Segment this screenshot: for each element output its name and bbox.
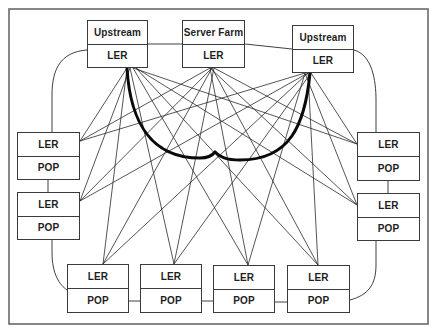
node-pop-bottom-4-top-label: LER xyxy=(288,266,349,289)
node-pop-bottom-1-top-label: LER xyxy=(68,265,128,288)
node-upstream-left-bottom-label: LER xyxy=(88,44,147,68)
node-pop-right-1-bottom-label: POP xyxy=(358,156,419,180)
link-upstream-right-to-pop-right-2 xyxy=(305,73,357,205)
node-pop-right-2-top-label: LER xyxy=(358,194,419,217)
node-pop-bottom-4[interactable]: LER POP xyxy=(287,265,350,313)
node-pop-bottom-3[interactable]: LER POP xyxy=(213,265,275,313)
node-server-farm-bottom-label: LER xyxy=(183,44,244,68)
node-pop-right-1-top-label: LER xyxy=(358,133,419,156)
node-pop-right-2-bottom-label: POP xyxy=(358,217,419,241)
node-pop-bottom-3-bottom-label: POP xyxy=(214,289,274,313)
node-pop-bottom-4-bottom-label: POP xyxy=(288,289,349,313)
node-upstream-right-top-label: Upstream xyxy=(293,26,353,49)
node-pop-bottom-3-top-label: LER xyxy=(214,266,274,289)
node-pop-left-2-bottom-label: POP xyxy=(18,216,79,240)
node-upstream-right[interactable]: Upstream LER xyxy=(292,25,354,73)
node-server-farm-top-label: Server Farm xyxy=(183,21,244,44)
node-pop-bottom-2-bottom-label: POP xyxy=(141,288,201,312)
node-upstream-right-bottom-label: LER xyxy=(293,49,353,73)
node-upstream-left[interactable]: Upstream LER xyxy=(87,20,148,68)
link-upstream-left-to-pop-bottom-2 xyxy=(130,68,174,264)
node-pop-left-2-top-label: LER xyxy=(18,193,79,216)
node-pop-left-1-bottom-label: POP xyxy=(18,156,79,180)
link-upstream-left-to-pop-right-1 xyxy=(133,68,357,144)
ring-link xyxy=(350,241,376,300)
link-upstream-right-to-pop-bottom-1 xyxy=(103,73,308,264)
node-upstream-left-top-label: Upstream xyxy=(88,21,147,44)
node-pop-left-1-top-label: LER xyxy=(18,133,79,156)
link-upstream-left-to-pop-left-1 xyxy=(80,68,127,141)
node-pop-right-1[interactable]: LER POP xyxy=(357,132,420,181)
node-server-farm[interactable]: Server Farm LER xyxy=(182,20,245,68)
link-upstream-right-to-pop-right-1 xyxy=(311,73,357,144)
link-upstream-left-to-pop-right-2 xyxy=(136,68,357,205)
node-pop-bottom-2[interactable]: LER POP xyxy=(140,264,202,313)
node-pop-bottom-1[interactable]: LER POP xyxy=(67,264,129,313)
link-upstream-right-to-pop-left-2 xyxy=(80,73,308,201)
node-pop-bottom-2-top-label: LER xyxy=(141,265,201,288)
link-server-farm-to-pop-right-1 xyxy=(214,68,357,144)
node-pop-bottom-1-bottom-label: POP xyxy=(68,288,128,312)
ring-link xyxy=(354,50,376,132)
node-pop-left-1[interactable]: LER POP xyxy=(17,132,80,180)
link-upstream-left-to-pop-bottom-3 xyxy=(133,68,248,265)
ring-link xyxy=(52,240,67,290)
ring-link xyxy=(245,44,292,49)
ring-link xyxy=(52,50,87,132)
mesh-links xyxy=(80,68,357,265)
node-pop-right-2[interactable]: LER POP xyxy=(357,193,420,241)
node-pop-left-2[interactable]: LER POP xyxy=(17,192,80,240)
link-upstream-left-to-pop-bottom-4 xyxy=(136,68,318,265)
link-server-farm-to-pop-bottom-3 xyxy=(210,68,248,265)
link-upstream-left-to-pop-left-2 xyxy=(80,68,130,201)
